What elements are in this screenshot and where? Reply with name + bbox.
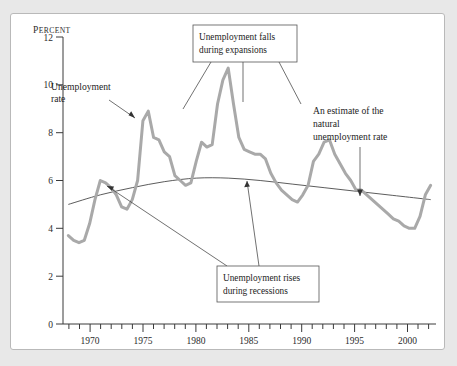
svg-text:1975: 1975 (134, 336, 153, 346)
svg-text:0: 0 (48, 320, 53, 330)
figure-frame: PERCENT 12 10 8 6 4 2 0 1970 (10, 13, 445, 350)
unemployment-rate-line (68, 68, 430, 243)
svg-text:2: 2 (48, 272, 53, 282)
svg-text:2000: 2000 (398, 336, 417, 346)
svg-text:6: 6 (48, 176, 53, 186)
callout-rises-during-recessions: Unemployment rises during recessions (107, 181, 319, 302)
arrowhead-recessions-right (244, 181, 250, 187)
svg-text:12: 12 (44, 33, 54, 43)
callout-recessions-line2: during recessions (223, 286, 288, 296)
svg-text:1985: 1985 (239, 336, 258, 346)
unemployment-chart: PERCENT 12 10 8 6 4 2 0 1970 (11, 14, 446, 351)
callout-expansions-line1: Unemployment falls (199, 32, 276, 42)
annotation-unemployment-rate: Unemployment rate (51, 81, 135, 118)
callout-expansions-line2: during expansions (199, 45, 267, 55)
annotation-natural-rate-line2: natural (313, 118, 340, 129)
arrowhead-unemployment-rate (129, 111, 136, 118)
callout-falls-during-expansions: Unemployment falls during expansions (183, 25, 301, 109)
svg-text:1995: 1995 (345, 336, 364, 346)
svg-text:1990: 1990 (292, 336, 311, 346)
svg-text:1970: 1970 (81, 336, 100, 346)
svg-text:1980: 1980 (186, 336, 205, 346)
x-axis-ticks: 1970 1975 1980 1985 1990 (69, 324, 429, 346)
callout-box-expansions (193, 25, 297, 62)
annotation-natural-rate-line3: unemployment rate (313, 131, 387, 142)
arrowhead-natural-rate (357, 190, 363, 196)
y-axis-ticks: 12 10 8 6 4 2 0 (44, 33, 64, 330)
svg-text:8: 8 (48, 128, 53, 138)
annotation-unemployment-rate-line2: rate (51, 93, 65, 104)
annotation-unemployment-rate-line1: Unemployment (51, 81, 111, 92)
annotation-natural-rate-line1: An estimate of the (313, 105, 384, 116)
callout-recessions-line1: Unemployment rises (223, 273, 301, 283)
callout-box-recessions (217, 266, 319, 302)
svg-text:4: 4 (48, 224, 53, 234)
